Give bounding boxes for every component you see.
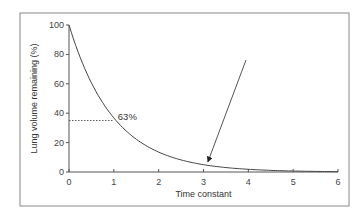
x-tick-label: 3 bbox=[201, 177, 206, 187]
x-axis-title: Time constant bbox=[175, 189, 232, 199]
x-tick-label: 5 bbox=[291, 177, 296, 187]
x-tick-label: 1 bbox=[111, 177, 116, 187]
y-tick-label: 0 bbox=[59, 167, 64, 177]
x-tick-label: 6 bbox=[335, 177, 340, 187]
y-tick-label: 40 bbox=[54, 108, 64, 118]
chart: 0204060801000123456 63% Time constant Lu… bbox=[0, 0, 364, 216]
annotation-label: 63% bbox=[118, 111, 138, 122]
x-tick-label: 4 bbox=[246, 177, 251, 187]
y-tick-label: 60 bbox=[54, 79, 64, 89]
y-tick-label: 100 bbox=[49, 20, 64, 30]
y-tick-label: 80 bbox=[54, 49, 64, 59]
y-tick-label: 20 bbox=[54, 138, 64, 148]
x-tick-label: 0 bbox=[66, 177, 71, 187]
y-axis-title: Lung volume remaining (%) bbox=[29, 43, 39, 153]
x-tick-label: 2 bbox=[156, 177, 161, 187]
